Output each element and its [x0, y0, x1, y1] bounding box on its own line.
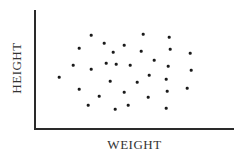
- data-point: [165, 78, 168, 81]
- data-point: [78, 47, 81, 50]
- data-point: [129, 64, 132, 67]
- data-point: [127, 104, 130, 107]
- data-point: [140, 50, 143, 53]
- data-point: [98, 95, 101, 98]
- data-point: [90, 34, 93, 37]
- data-point: [105, 62, 108, 65]
- data-point: [58, 76, 61, 79]
- data-point: [153, 59, 156, 62]
- data-point: [169, 48, 172, 51]
- data-point: [186, 87, 189, 90]
- data-point: [147, 96, 150, 99]
- data-point: [90, 68, 93, 71]
- data-point: [115, 63, 118, 66]
- data-point: [167, 65, 170, 68]
- data-point: [87, 104, 90, 107]
- data-point: [189, 52, 192, 55]
- data-point: [166, 90, 169, 93]
- data-point: [78, 88, 81, 91]
- data-point: [123, 91, 126, 94]
- data-point: [123, 44, 126, 47]
- data-point: [114, 108, 117, 111]
- data-point: [112, 51, 115, 54]
- data-point: [165, 107, 168, 110]
- data-point: [136, 81, 139, 84]
- data-point: [142, 33, 145, 36]
- data-point: [148, 74, 151, 77]
- data-point: [168, 36, 171, 39]
- data-point: [72, 64, 75, 67]
- data-point: [190, 69, 193, 72]
- data-point: [109, 80, 112, 83]
- data-point: [103, 42, 106, 45]
- scatter-plot-area: [0, 0, 247, 158]
